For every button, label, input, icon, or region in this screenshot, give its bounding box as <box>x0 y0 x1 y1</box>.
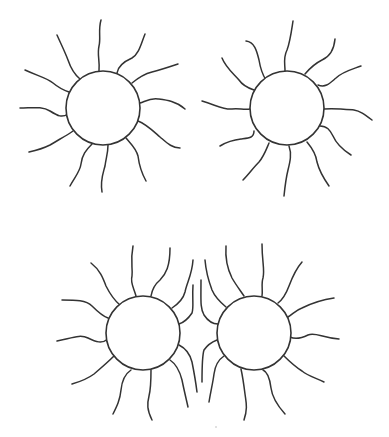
sun-ray <box>148 370 152 420</box>
sun-ray <box>179 345 197 392</box>
sun-ray <box>283 355 324 382</box>
sun-ray <box>70 144 92 186</box>
sun-ray <box>305 39 335 74</box>
sun-ray <box>241 369 246 420</box>
sun-ray <box>226 246 244 296</box>
sun-ray <box>209 356 224 402</box>
sun-ray <box>131 246 136 296</box>
sun-ray <box>202 340 217 382</box>
sun-ray <box>25 70 69 92</box>
sun-ray <box>20 108 68 117</box>
sun-ray <box>57 35 80 79</box>
sun-ray <box>205 260 226 307</box>
sun-ray <box>290 334 339 339</box>
four-suns-illustration <box>0 0 389 437</box>
sun-ray <box>126 138 146 181</box>
sun-ray <box>324 109 372 120</box>
sun-ray <box>140 99 185 109</box>
specks-layer <box>215 426 217 428</box>
sun-ray <box>284 146 291 196</box>
sun-ray <box>170 360 188 407</box>
sun-ray <box>57 336 108 342</box>
sun-ray <box>202 101 250 109</box>
sun-ray <box>307 142 329 186</box>
sun-ray <box>262 244 264 296</box>
sun-disc <box>66 71 140 145</box>
sun-ray <box>243 143 269 180</box>
sun-ray <box>318 66 361 86</box>
sun-ray <box>172 260 193 308</box>
suns-layer <box>20 20 372 420</box>
sun-ray <box>320 126 351 155</box>
sun-ray <box>222 58 254 90</box>
sun-ray <box>151 248 170 296</box>
sun-ray <box>285 21 294 71</box>
sun-ray <box>132 64 178 83</box>
sun-ray <box>201 280 218 324</box>
sun-disc <box>106 296 180 370</box>
sun-ray <box>72 356 114 384</box>
sun-ray <box>101 145 108 192</box>
sun-top-left <box>20 20 185 192</box>
sun-ray <box>138 121 180 148</box>
sun-ray <box>98 20 101 71</box>
sun-ray <box>29 131 73 152</box>
sun-ray <box>263 370 285 414</box>
sun-ray <box>113 370 131 414</box>
sun-bottom-right <box>201 244 339 420</box>
sun-ray <box>246 41 266 80</box>
sun-top-right <box>202 21 372 196</box>
sun-ray <box>117 34 145 73</box>
sun-ray <box>62 300 108 318</box>
sun-disc <box>217 296 291 370</box>
sun-ray <box>278 262 302 303</box>
sun-bottom-left <box>57 246 197 420</box>
sun-ray <box>91 263 120 305</box>
scan-speck <box>215 426 217 428</box>
sun-ray <box>288 298 334 317</box>
sun-disc <box>250 71 324 145</box>
sun-ray <box>220 131 254 146</box>
